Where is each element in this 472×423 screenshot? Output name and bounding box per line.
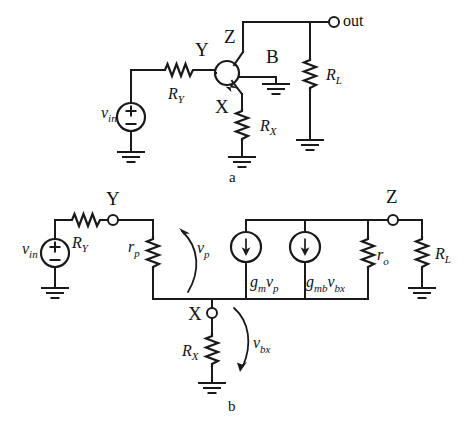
resistor-RY-a <box>162 64 196 76</box>
voltage-arrow-vp-b <box>179 228 196 292</box>
panel-a: vin RY Y Z X B out <box>101 12 364 185</box>
terminal-X-b <box>207 308 217 318</box>
voltage-label-vbx-b: vbx <box>253 334 271 355</box>
resistor-rp-b <box>147 236 159 270</box>
resistor-label-RY-a: RY <box>167 85 186 105</box>
ground-RL-a <box>297 140 323 150</box>
resistor-ro-b <box>362 236 374 270</box>
voltage-source-vin-a <box>117 70 145 162</box>
resistor-label-RX-b: RX <box>181 342 200 362</box>
terminal-Y-b <box>108 215 118 225</box>
voltage-arrow-vbx-b <box>234 308 248 372</box>
node-label-B-a: B <box>266 46 279 67</box>
current-source-label-gmb-vbx-b: gmbvbx <box>306 273 345 294</box>
resistor-label-rp-b: rp <box>128 238 140 259</box>
panel-caption-a: a <box>229 169 236 185</box>
panel-b: vin RY Y rp X RX <box>22 186 451 414</box>
resistor-label-RY-b: RY <box>71 234 90 254</box>
node-label-out-a: out <box>343 12 364 29</box>
ground-B-a <box>263 84 289 94</box>
terminal-out-a <box>329 17 339 27</box>
source-label-vin-b: vin <box>22 240 38 260</box>
node-label-X-b: X <box>188 303 202 324</box>
ground-RL-b <box>409 288 435 298</box>
node-label-Y-a: Y <box>195 39 209 60</box>
transistor-symbol-a <box>215 52 243 94</box>
schematic-canvas: vin RY Y Z X B out <box>0 0 472 423</box>
current-source-label-gm-vp-b: gmvp <box>250 273 279 294</box>
resistor-label-RL-b: RL <box>434 245 451 265</box>
resistor-RX-b <box>206 333 218 367</box>
resistor-RY-b <box>69 214 103 226</box>
node-label-X-a: X <box>215 96 229 117</box>
resistor-label-RX-a: RX <box>259 117 278 137</box>
resistor-label-ro-b: ro <box>377 246 389 267</box>
node-label-Y-b: Y <box>106 188 120 209</box>
resistor-RX-a <box>236 108 248 142</box>
voltage-source-vin-b <box>41 220 69 298</box>
node-label-Z-b: Z <box>386 186 398 207</box>
voltage-label-vp-b: vp <box>197 239 210 260</box>
resistor-RL-a <box>304 57 316 91</box>
terminal-Z-b <box>388 215 398 225</box>
ground-RX-b <box>199 383 225 393</box>
resistor-label-RL-a: RL <box>325 66 342 86</box>
panel-caption-b: b <box>228 398 236 414</box>
resistor-RL-b <box>416 236 428 270</box>
circuit-figure: vin RY Y Z X B out <box>0 0 472 423</box>
source-label-vin-a: vin <box>101 104 117 124</box>
ground-RX-a <box>229 157 255 167</box>
node-label-Z-a: Z <box>224 26 236 47</box>
